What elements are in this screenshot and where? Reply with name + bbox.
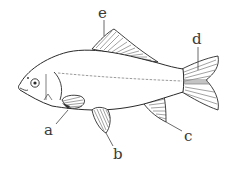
label-c: c [184,127,192,145]
label-e: e [98,4,107,22]
leader-line-c [166,122,182,131]
label-b: b [113,145,123,163]
caudal-fin [182,56,218,110]
pelvic-fin [92,107,110,133]
label-a: a [44,121,53,139]
label-d: d [192,30,202,48]
leader-line-a [56,110,68,124]
leader-line-b [106,133,113,146]
fish-diagram: a b c d e [0,0,234,171]
